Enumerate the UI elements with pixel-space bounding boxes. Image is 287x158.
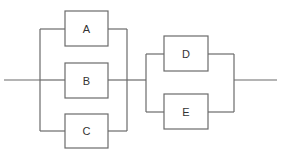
block-c-label: C: [83, 125, 91, 137]
block-a: A: [65, 11, 108, 46]
block-b-label: B: [83, 75, 90, 87]
block-a-label: A: [83, 23, 91, 35]
block-c: C: [65, 114, 108, 148]
block-d: D: [164, 36, 208, 71]
block-d-label: D: [182, 48, 190, 60]
block-b: B: [65, 63, 108, 98]
block-e-label: E: [182, 106, 189, 118]
reliability-block-diagram: A B C D E: [0, 0, 287, 158]
block-e: E: [164, 94, 208, 129]
